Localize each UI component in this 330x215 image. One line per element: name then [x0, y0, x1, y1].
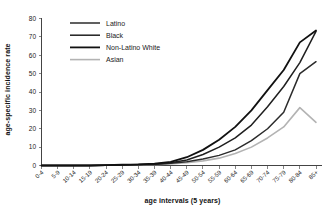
- x-tick-label: 80-84: [288, 169, 304, 184]
- series-line-latino: [42, 62, 317, 166]
- x-tick-label: 85+: [308, 169, 320, 181]
- x-tick-label: 70-74: [255, 169, 271, 184]
- y-tick-label: 70: [29, 33, 37, 40]
- x-tick-label: 30-34: [126, 169, 142, 184]
- y-tick-label: 80: [29, 15, 37, 22]
- x-tick-label: 0-4: [34, 169, 45, 180]
- legend-label-latino: Latino: [106, 20, 125, 27]
- x-tick-label: 20-24: [94, 169, 110, 184]
- y-tick-label: 30: [29, 107, 37, 114]
- x-axis-tick-group: 0-45-910-1415-1920-2425-2930-3435-3940-4…: [34, 166, 319, 185]
- y-tick-label: 40: [29, 88, 37, 95]
- y-tick-label: 60: [29, 52, 37, 59]
- legend-label-black: Black: [106, 32, 124, 39]
- y-tick-label: 50: [29, 70, 37, 77]
- series-line-black: [42, 31, 317, 165]
- x-tick-label: 35-39: [142, 169, 158, 184]
- legend-label-non-latino-white: Non-Latino White: [106, 44, 160, 51]
- x-tick-label: 40-44: [158, 169, 174, 184]
- x-tick-label: 10-14: [62, 169, 78, 184]
- x-tick-label: 45-49: [175, 169, 191, 184]
- x-tick-label: 75-79: [271, 169, 287, 184]
- x-tick-label: 65-69: [239, 169, 255, 184]
- y-axis-tick-group: 01020304050607080: [29, 15, 42, 169]
- x-tick-label: 25-29: [110, 169, 126, 184]
- series-group: [42, 30, 317, 165]
- x-tick-label: 50-54: [191, 169, 207, 184]
- y-tick-label: 10: [29, 143, 37, 150]
- chart-figure: age-specific incidence rate age interval…: [0, 0, 330, 215]
- line-chart-plot: 01020304050607080 0-45-910-1415-1920-242…: [0, 0, 330, 215]
- y-tick-label: 0: [32, 162, 36, 169]
- x-tick-label: 15-19: [78, 169, 94, 184]
- x-tick-label: 60-64: [223, 169, 239, 184]
- y-tick-label: 20: [29, 125, 37, 132]
- legend-label-asian: Asian: [106, 56, 124, 63]
- x-tick-label: 5-9: [50, 169, 61, 180]
- chart-legend: LatinoBlackNon-Latino WhiteAsian: [70, 20, 160, 64]
- x-tick-label: 55-59: [207, 169, 223, 184]
- series-line-asian: [42, 108, 317, 166]
